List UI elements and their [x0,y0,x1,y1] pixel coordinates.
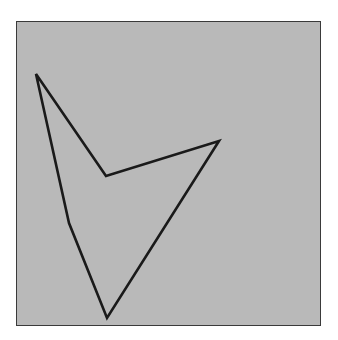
figure-canvas [0,0,338,340]
arrowhead-polygon [36,74,219,318]
polygon-diagram [0,0,338,340]
